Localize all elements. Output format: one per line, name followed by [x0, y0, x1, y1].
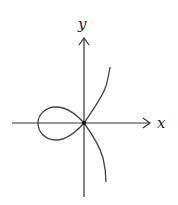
- origin-node-point: [82, 121, 86, 125]
- x-axis-label: x: [157, 114, 166, 132]
- y-axis-label: y: [77, 15, 87, 33]
- curve-diagram: x y: [0, 0, 178, 205]
- curve-upper-branch: [84, 67, 110, 123]
- curve-lower-branch: [84, 123, 106, 182]
